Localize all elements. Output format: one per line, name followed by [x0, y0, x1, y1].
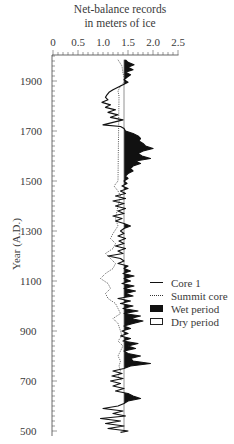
plot-area [0, 0, 234, 444]
legend-item-wet: Wet period [150, 302, 228, 315]
empty-box-swatch-icon [150, 318, 163, 325]
legend-label: Summit core [171, 290, 228, 302]
legend-item-summit: Summit core [150, 289, 228, 302]
legend: Core 1 Summit core Wet period Dry period [150, 276, 228, 328]
legend-item-core1: Core 1 [150, 276, 228, 289]
wet-period-fills [101, 60, 154, 433]
series-lines [101, 60, 154, 433]
dotted-line-swatch-icon [150, 295, 163, 296]
legend-label: Dry period [171, 316, 219, 328]
legend-label: Wet period [171, 303, 219, 315]
filled-box-swatch-icon [150, 305, 163, 312]
solid-line-swatch-icon [150, 282, 163, 283]
legend-label: Core 1 [171, 277, 201, 289]
legend-item-dry: Dry period [150, 315, 228, 328]
